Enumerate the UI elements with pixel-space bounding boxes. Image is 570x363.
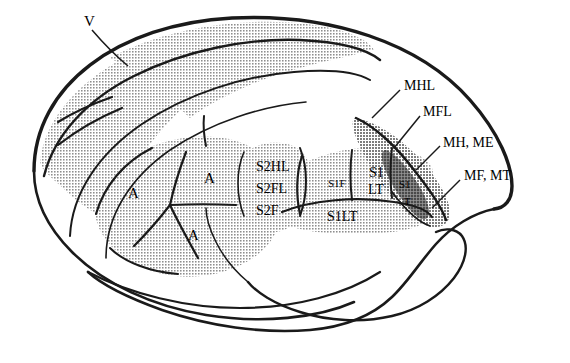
- label-MF-MT: MF, MT: [464, 169, 511, 183]
- label-T: T: [404, 196, 411, 207]
- label-MH-ME: MH, ME: [443, 136, 494, 150]
- label-S2F: S2F: [256, 204, 279, 218]
- label-S1LT: S1LT: [327, 210, 358, 224]
- label-S2FL: S2FL: [256, 182, 287, 196]
- leader-line-MHL: [372, 90, 400, 118]
- cortical-field-shading: [40, 22, 450, 277]
- label-MFL: MFL: [423, 105, 452, 119]
- label-auditory-A-3: A: [188, 228, 199, 243]
- label-auditory-A-1: A: [128, 186, 139, 201]
- label-MHL: MHL: [404, 79, 435, 93]
- label-S1-upper: S1: [369, 166, 384, 180]
- label-visual-V: V: [84, 14, 95, 29]
- label-auditory-A-2: A: [204, 171, 215, 186]
- ventral-cleft-line: [88, 272, 380, 308]
- auditory-division-right: [170, 204, 236, 205]
- leader-line-MFL: [394, 116, 420, 148]
- figure-canvas: V A A A S2HL S2FL S2F S1F S1 LT S1 T S1L…: [0, 0, 570, 363]
- label-S1-right: S1: [399, 179, 411, 190]
- label-S1F: S1F: [328, 178, 346, 189]
- label-S2HL: S2HL: [256, 160, 289, 174]
- label-LT: LT: [368, 183, 384, 197]
